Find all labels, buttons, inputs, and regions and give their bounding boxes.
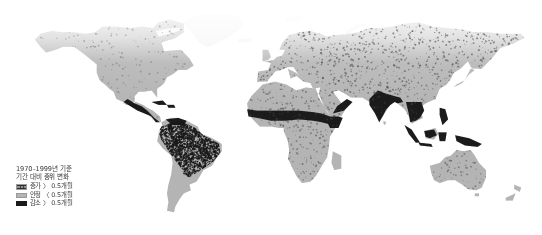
legend-swatch-stable-icon xyxy=(16,193,27,199)
legend-title-line-2: 기간 대비 중위 변화 xyxy=(16,173,112,181)
map-legend: 1970–1999년 기준 기간 대비 중위 변화 증가 〉 0.5개월 안정 … xyxy=(16,165,112,208)
legend-swatch-increase-icon xyxy=(16,184,27,190)
legend-entry-list: 증가 〉 0.5개월 안정 〈 0.5개월 감소 〉 0.5개월 xyxy=(16,183,112,208)
legend-label-stable: 안정 〈 0.5개월 xyxy=(30,192,73,199)
legend-title-line-1: 1970–1999년 기준 xyxy=(16,165,112,173)
legend-label-decrease: 감소 〉 0.5개월 xyxy=(30,200,73,207)
legend-label-increase: 증가 〉 0.5개월 xyxy=(30,183,73,190)
legend-swatch-decrease-icon xyxy=(16,201,27,207)
figure-container: 1970–1999년 기준 기간 대비 중위 변화 증가 〉 0.5개월 안정 … xyxy=(0,0,542,235)
legend-entry-increase: 증가 〉 0.5개월 xyxy=(16,183,112,191)
legend-entry-decrease: 감소 〉 0.5개월 xyxy=(16,200,112,208)
